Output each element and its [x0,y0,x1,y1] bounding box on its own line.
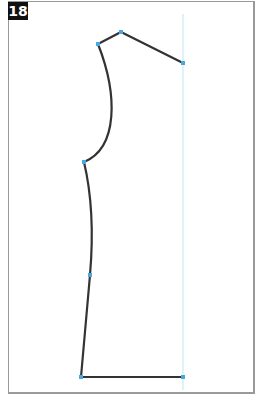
point-neck-top[interactable] [119,30,123,34]
side-seam-lower [81,275,90,377]
point-shoulder[interactable] [181,61,185,65]
pattern-diagram [0,0,262,398]
control-points [79,30,185,379]
point-hem-center[interactable] [181,375,185,379]
point-armhole-bottom[interactable] [82,160,86,164]
point-hem-side[interactable] [79,375,83,379]
point-side-waist[interactable] [88,273,92,277]
armhole-curve [84,44,112,162]
side-seam-upper [84,162,92,275]
shoulder-line [98,32,183,63]
point-neck-front[interactable] [96,42,100,46]
bodice-outline [81,32,183,377]
